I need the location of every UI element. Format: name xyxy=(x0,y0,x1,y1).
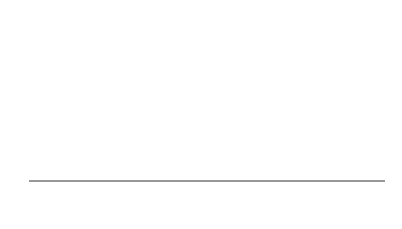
normal-curves-diagram xyxy=(0,0,402,229)
